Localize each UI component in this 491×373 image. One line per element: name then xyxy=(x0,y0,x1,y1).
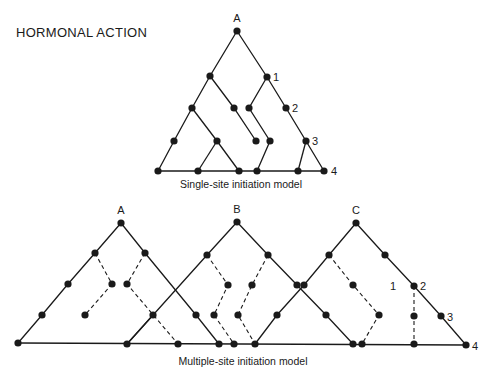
solid-edge xyxy=(18,343,466,345)
node-dot xyxy=(263,73,270,80)
node-dot xyxy=(352,219,359,226)
node-dot xyxy=(91,249,98,256)
node-dot xyxy=(233,218,240,225)
node-dot xyxy=(375,311,382,318)
node-label: B xyxy=(233,203,240,215)
node-dot xyxy=(293,281,300,288)
diagram-canvas: A1234Single-site initiation model ABC123… xyxy=(0,0,491,373)
node-dot xyxy=(358,340,365,347)
node-dot xyxy=(462,341,469,348)
node-label: 2 xyxy=(420,280,426,292)
node-dot xyxy=(206,72,213,79)
solid-edge xyxy=(121,223,219,344)
solid-edge xyxy=(237,31,324,171)
node-dot xyxy=(302,137,309,144)
node-dot xyxy=(108,280,115,287)
node-dot xyxy=(252,137,259,144)
multiple-site-initiation-diagram: ABC1234Multiple-site initiation model xyxy=(14,203,478,367)
node-dot xyxy=(325,251,332,258)
diagram-caption: Single-site initiation model xyxy=(180,178,302,190)
solid-edge xyxy=(198,141,217,171)
node-dot xyxy=(170,137,177,144)
node-dot xyxy=(230,104,237,111)
node-dot xyxy=(203,251,210,258)
dashed-edge xyxy=(238,255,268,344)
node-dot xyxy=(64,280,71,287)
node-dot xyxy=(117,219,124,226)
node-dot xyxy=(253,167,260,174)
node-dot xyxy=(192,311,199,318)
node-label: 3 xyxy=(447,311,453,323)
node-dot xyxy=(230,340,237,347)
node-dot xyxy=(233,27,240,34)
node-dot xyxy=(188,104,195,111)
node-dot xyxy=(410,340,417,347)
node-label: A xyxy=(233,12,241,24)
dashed-edge xyxy=(207,255,234,344)
node-dot xyxy=(81,311,88,318)
node-dot xyxy=(410,312,417,319)
node-dot xyxy=(349,281,356,288)
node-dot xyxy=(141,249,148,256)
node-dot xyxy=(215,340,222,347)
solid-edge xyxy=(249,77,270,171)
node-dot xyxy=(300,281,307,288)
node-dot xyxy=(437,312,444,319)
node-label: 3 xyxy=(312,135,318,147)
node-dot xyxy=(149,311,156,318)
dashed-edge xyxy=(329,255,379,344)
node-label: A xyxy=(117,204,125,216)
node-dot xyxy=(235,167,242,174)
node-dot xyxy=(210,311,217,318)
node-dot xyxy=(266,137,273,144)
dashed-edge xyxy=(127,253,178,344)
node-dot xyxy=(320,167,327,174)
node-dot xyxy=(264,251,271,258)
node-dot xyxy=(174,340,181,347)
node-label: 2 xyxy=(292,102,298,114)
node-dot xyxy=(282,104,289,111)
node-dot xyxy=(38,311,45,318)
node-label: 1 xyxy=(273,71,279,83)
node-label: C xyxy=(352,204,360,216)
node-dot xyxy=(381,251,388,258)
single-site-initiation-diagram: A1234Single-site initiation model xyxy=(154,12,337,190)
node-label: 4 xyxy=(472,340,478,352)
node-dot xyxy=(251,340,258,347)
node-dot xyxy=(245,104,252,111)
solid-edge xyxy=(127,222,237,344)
node-dot xyxy=(213,137,220,144)
node-dot xyxy=(410,282,417,289)
node-dot xyxy=(294,167,301,174)
node-dot xyxy=(322,311,329,318)
node-dot xyxy=(273,311,280,318)
node-dot xyxy=(154,167,161,174)
solid-edge xyxy=(158,31,237,171)
node-dot xyxy=(248,281,255,288)
node-dot xyxy=(14,339,21,346)
node-dot xyxy=(349,340,356,347)
diagram-caption: Multiple-site initiation model xyxy=(179,355,308,367)
node-dot xyxy=(123,280,130,287)
node-dot xyxy=(123,340,130,347)
node-dot xyxy=(224,281,231,288)
node-label: 1 xyxy=(390,280,396,292)
node-dot xyxy=(194,167,201,174)
dashed-edge xyxy=(85,253,112,315)
node-dot xyxy=(234,311,241,318)
solid-edge xyxy=(298,141,306,171)
node-label: 4 xyxy=(331,165,337,177)
